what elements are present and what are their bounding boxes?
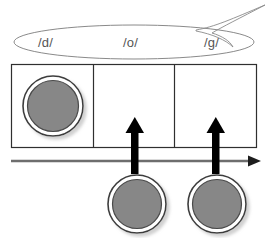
counter-face <box>28 81 79 132</box>
main-diagram-layer <box>0 0 267 238</box>
move-arrow-1-shaft <box>131 128 139 174</box>
counter-in-cell-1[interactable] <box>23 76 83 136</box>
counter-face <box>193 180 242 229</box>
diagram-canvas: /d/ /o/ /g/ <box>0 0 267 238</box>
counter-below-cell-3[interactable] <box>188 175 246 233</box>
move-arrow-2-shaft <box>212 128 220 174</box>
counter-face <box>113 180 162 229</box>
timeline-arrowhead <box>248 156 261 167</box>
counter-below-cell-2[interactable] <box>108 175 166 233</box>
